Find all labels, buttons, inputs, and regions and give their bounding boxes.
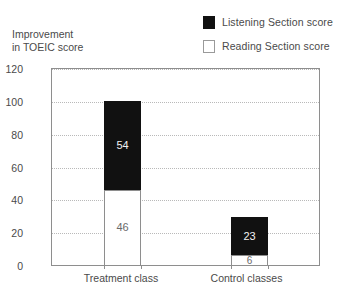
bar-control-classes: 23 6	[231, 217, 268, 265]
x-tick-treatment-right	[141, 265, 142, 269]
x-tick-control-right	[268, 265, 269, 269]
x-axis-label-treatment-class: Treatment class	[62, 272, 180, 284]
bar-segment-listening-control: 23	[231, 217, 268, 255]
y-axis-title-line-1: Improvement	[12, 28, 83, 41]
x-axis-label-control-classes: Control classes	[190, 272, 303, 284]
bar-segment-reading-treatment: 46	[104, 190, 141, 266]
bar-value-listening-treatment: 54	[116, 140, 128, 151]
x-tick-treatment-left	[104, 265, 105, 269]
legend-swatch-reading-icon	[203, 40, 215, 53]
legend-label-listening: Listening Section score	[222, 16, 333, 28]
bar-segment-reading-control: 6	[231, 255, 268, 265]
gridline-60	[52, 168, 319, 169]
chart-legend: Listening Section score Reading Section …	[203, 12, 342, 60]
gridline-20	[52, 233, 319, 234]
legend-swatch-listening-icon	[203, 16, 215, 29]
bar-treatment-class: 54 46	[104, 101, 141, 265]
y-tick-label-0: 0	[0, 260, 23, 272]
y-axis-title: Improvement in TOEIC score	[12, 28, 83, 54]
bar-value-listening-control: 23	[243, 231, 255, 242]
x-tick-control-left	[231, 265, 232, 269]
legend-label-reading: Reading Section score	[222, 40, 330, 52]
y-tick-label-60: 60	[0, 162, 23, 174]
gridline-100	[52, 102, 319, 103]
bar-value-reading-treatment: 46	[116, 222, 128, 233]
gridline-120	[52, 69, 319, 70]
y-tick-label-20: 20	[0, 227, 23, 239]
bar-segment-listening-treatment: 54	[104, 101, 141, 190]
y-tick-label-80: 80	[0, 129, 23, 141]
bar-value-reading-control: 6	[247, 256, 253, 265]
gridline-80	[52, 135, 319, 136]
y-tick-label-120: 120	[0, 63, 23, 75]
plot-area: 120 100 80 60 40 20 0 54 46 23 6	[51, 68, 320, 266]
y-tick-label-40: 40	[0, 194, 23, 206]
y-tick-label-100: 100	[0, 96, 23, 108]
legend-item-reading: Reading Section score	[203, 36, 342, 56]
legend-item-listening: Listening Section score	[203, 12, 342, 32]
y-axis-title-line-2: in TOEIC score	[12, 41, 83, 54]
gridline-40	[52, 200, 319, 201]
